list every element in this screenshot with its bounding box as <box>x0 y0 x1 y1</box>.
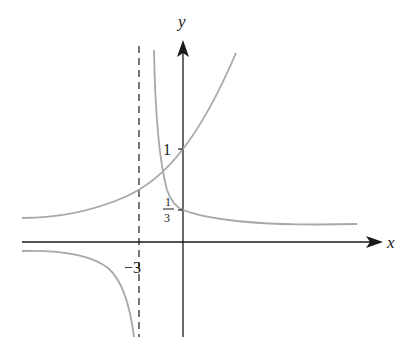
graph: x y −3 1 1 3 <box>0 0 397 337</box>
hyperbola-lower-branch <box>22 251 134 337</box>
hyperbola-upper-branch <box>154 50 357 224</box>
x-axis-label: x <box>386 233 395 252</box>
y-axis-label: y <box>176 12 186 31</box>
x-tick-label-neg3: −3 <box>124 259 141 276</box>
y-tick-label-1: 1 <box>163 141 171 158</box>
exponential-curve <box>22 53 236 218</box>
y-tick-label-third-denominator: 3 <box>164 211 170 225</box>
y-tick-label-third-numerator: 1 <box>165 195 171 209</box>
